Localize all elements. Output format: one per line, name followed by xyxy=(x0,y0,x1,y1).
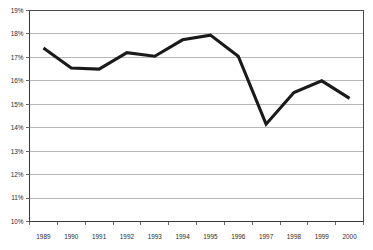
line-chart: 19%18%17%16%15%14%13%12%11%10% 198919901… xyxy=(0,0,373,250)
y-axis-label: 10% xyxy=(11,218,24,225)
x-axis-label: 1999 xyxy=(315,233,330,240)
y-axis-label: 19% xyxy=(11,7,24,14)
x-axis-label: 1989 xyxy=(36,233,51,240)
x-axis-label: 1998 xyxy=(287,233,302,240)
x-axis-label: 1995 xyxy=(203,233,218,240)
y-axis-label: 11% xyxy=(11,194,24,201)
x-axis-label: 1993 xyxy=(148,233,163,240)
x-axis-label: 1994 xyxy=(175,233,190,240)
x-axis-label: 2000 xyxy=(342,233,357,240)
x-axis-label: 1991 xyxy=(92,233,107,240)
y-axis-label: 12% xyxy=(11,171,24,178)
x-axis-label: 1992 xyxy=(120,233,135,240)
y-axis-label: 18% xyxy=(11,30,24,37)
y-axis-label: 17% xyxy=(11,54,24,61)
x-axis-label: 1990 xyxy=(64,233,79,240)
y-axis-label: 13% xyxy=(11,148,24,155)
chart-canvas: 19%18%17%16%15%14%13%12%11%10% 198919901… xyxy=(0,0,373,250)
plot-background xyxy=(0,0,373,250)
y-axis-label: 16% xyxy=(11,77,24,84)
x-axis-label: 1996 xyxy=(231,233,246,240)
y-axis-label: 14% xyxy=(11,124,24,131)
x-axis-label: 1997 xyxy=(259,233,274,240)
y-axis-label: 15% xyxy=(11,101,24,108)
